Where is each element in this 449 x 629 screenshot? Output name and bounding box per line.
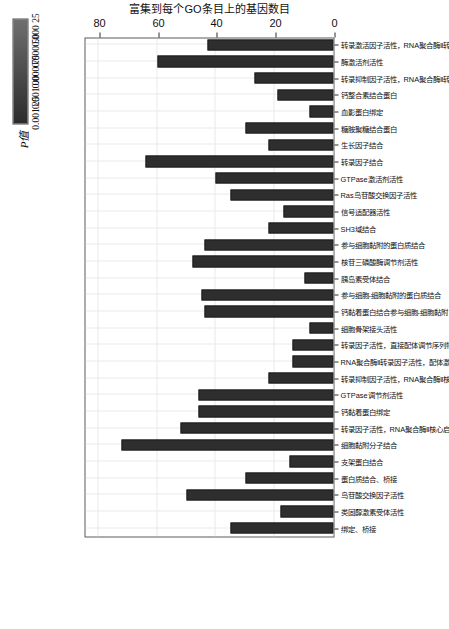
- axis-tick-label: 60: [151, 16, 163, 28]
- category-tick: [334, 261, 338, 262]
- category-tick: [334, 111, 338, 112]
- category-label: 酶激活剂活性: [340, 58, 382, 65]
- category-label: 鸟苷酸交换因子活性: [340, 492, 403, 499]
- axis-tick-label: 20: [269, 16, 281, 28]
- category-label: 转录因子活性，直接配体调节序列特异性DNA结合: [340, 342, 449, 349]
- category-tick: [334, 311, 338, 312]
- category-labels: 绑定、桥接类固醇激素受体活性鸟苷酸交换因子活性蛋白质结合、桥接支架蛋白结合细胞黏…: [0, 0, 449, 629]
- axis-tick: [216, 32, 217, 37]
- category-label: 绑定、桥接: [340, 525, 375, 532]
- category-label: 转录抑制因子活性，RNA聚合酶Ⅱ核心启动子近端区域序列特异性DNA结合: [340, 375, 449, 382]
- axis-tick: [158, 32, 159, 37]
- category-tick: [334, 194, 338, 195]
- category-label: GTPase调节剂活性: [340, 392, 402, 399]
- category-tick: [334, 461, 338, 462]
- category-tick: [334, 511, 338, 512]
- category-tick: [334, 78, 338, 79]
- axis-tick-label: 80: [93, 16, 105, 28]
- category-label: 信号适配器活性: [340, 208, 389, 215]
- category-label: 钙黏着蛋白绑定: [340, 408, 389, 415]
- category-tick: [334, 478, 338, 479]
- rotated-figure-wrapper: P值 0.001 250.001 000.000 750.000 500.000…: [0, 0, 449, 629]
- category-label: 核苷三磷酸酶调节剂活性: [340, 258, 417, 265]
- category-label: 转录抑制因子活性，RNA聚合酶Ⅱ转录调控区序列特异性结合: [340, 75, 449, 82]
- category-label: 细胞骨架接头活性: [340, 325, 396, 332]
- category-tick: [334, 278, 338, 279]
- category-label: 糖胺聚糖结合蛋白: [340, 125, 396, 132]
- category-label: 参与细胞-细胞黏附的蛋白质结合: [340, 292, 440, 299]
- category-label: RNA聚合酶Ⅱ转录因子活性，配体激活的序列特异性DNA结合: [340, 358, 449, 365]
- category-tick: [334, 394, 338, 395]
- category-tick: [334, 494, 338, 495]
- axis-tick: [334, 32, 335, 37]
- category-label: 转录因子活性，RNA聚合酶Ⅱ核心启动子近端区域序列特异性结合: [340, 425, 449, 432]
- category-tick: [334, 228, 338, 229]
- axis-tick-label: 40: [210, 16, 222, 28]
- go-enrichment-bar-chart: P值 0.001 250.001 000.000 750.000 500.000…: [0, 0, 449, 629]
- category-label: Ras鸟苷酸交换因子活性: [340, 192, 416, 199]
- category-tick: [334, 528, 338, 529]
- category-label: SH3域结合: [340, 225, 375, 232]
- category-tick: [334, 161, 338, 162]
- category-label: 支架蛋白结合: [340, 458, 382, 465]
- category-tick: [334, 211, 338, 212]
- category-tick: [334, 344, 338, 345]
- category-label: GTPase激活剂活性: [340, 175, 402, 182]
- category-label: 胰岛素受体结合: [340, 275, 389, 282]
- category-tick: [334, 61, 338, 62]
- category-tick: [334, 411, 338, 412]
- axis-tick: [275, 32, 276, 37]
- category-label: 参与细胞黏附的蛋白质结合: [340, 242, 424, 249]
- category-label: 生长因子结合: [340, 142, 382, 149]
- category-label: 细胞黏附分子结合: [340, 442, 396, 449]
- category-tick: [334, 328, 338, 329]
- category-label: 类固醇激素受体活性: [340, 508, 403, 515]
- category-tick: [334, 178, 338, 179]
- axis-tick: [99, 32, 100, 37]
- category-label: 蛋白质结合、桥接: [340, 475, 396, 482]
- category-tick: [334, 361, 338, 362]
- category-label: 钙黏着蛋白结合参与细胞-细胞黏附: [340, 308, 447, 315]
- category-tick: [334, 44, 338, 45]
- category-tick: [334, 144, 338, 145]
- category-label: 转录因子结合: [340, 158, 382, 165]
- category-tick: [334, 428, 338, 429]
- category-label: 血影蛋白绑定: [340, 108, 382, 115]
- category-tick: [334, 444, 338, 445]
- category-label: 转录激活因子活性，RNA聚合酶Ⅱ转录调控区序列特异性结合: [340, 42, 449, 49]
- category-tick: [334, 128, 338, 129]
- category-tick: [334, 244, 338, 245]
- category-label: 钙整合素结合蛋白: [340, 92, 396, 99]
- category-tick: [334, 294, 338, 295]
- category-tick: [334, 94, 338, 95]
- category-tick: [334, 378, 338, 379]
- axis-tick-label: 0: [331, 16, 337, 28]
